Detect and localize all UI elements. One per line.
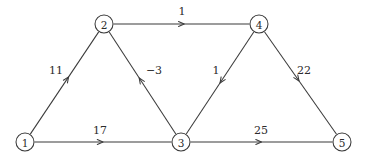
edge-1-to-2 [30, 32, 98, 134]
edge-weight-2-to-4: 1 [179, 5, 186, 18]
node-label-4: 4 [256, 19, 263, 31]
node-label-1: 1 [22, 137, 29, 149]
edge-weight-4-to-5: 22 [297, 64, 311, 77]
edge-4-to-5 [264, 32, 336, 134]
node-3[interactable]: 3 [172, 133, 190, 151]
node-4[interactable]: 4 [250, 15, 268, 33]
edge-weight-3-to-5: 25 [254, 124, 268, 137]
edge-weight-1-to-3: 17 [93, 124, 107, 137]
node-label-2: 2 [101, 19, 108, 31]
node-1[interactable]: 1 [16, 133, 34, 151]
graph-figure: 12345 111−31221725 [0, 0, 367, 160]
node-label-5: 5 [339, 137, 346, 149]
edge-weight-1-to-2: 11 [49, 64, 63, 77]
edge-3-to-2 [109, 32, 176, 134]
node-2[interactable]: 2 [95, 15, 113, 33]
node-5[interactable]: 5 [333, 133, 351, 151]
edges-layer [30, 24, 336, 142]
edge-weight-3-to-2: −3 [146, 64, 162, 77]
node-label-3: 3 [178, 137, 185, 149]
edge-weight-4-to-3: 1 [213, 64, 220, 77]
graph-canvas: 12345 111−31221725 [0, 0, 367, 160]
